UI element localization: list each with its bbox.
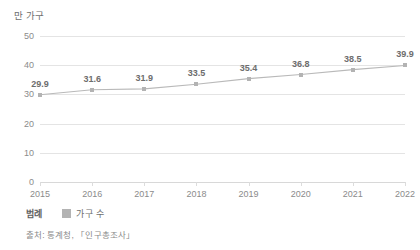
y-tick-label-40: 40: [24, 60, 34, 70]
source-note: 출처: 통계청, 「인구총조사」: [26, 228, 135, 240]
data-label-2015: 29.9: [31, 79, 49, 89]
x-tick-mark-2022: [405, 182, 406, 186]
data-point-2021[interactable]: [351, 68, 355, 72]
x-tick-mark-2015: [40, 182, 41, 186]
legend-item-household-count[interactable]: 가구 수: [62, 207, 103, 220]
data-point-2022[interactable]: [403, 63, 407, 67]
data-label-2022: 39.9: [396, 49, 414, 59]
data-point-2017[interactable]: [142, 87, 146, 91]
x-tick-mark-2017: [144, 182, 145, 186]
x-tick-mark-2016: [92, 182, 93, 186]
x-tick-label-2020: 2020: [291, 189, 311, 199]
x-tick-label-2021: 2021: [343, 189, 363, 199]
y-tick-label-20: 20: [24, 119, 34, 129]
x-tick-mark-2021: [353, 182, 354, 186]
y-tick-label-0: 0: [29, 177, 34, 187]
x-tick-label-2019: 2019: [239, 189, 259, 199]
data-label-2021: 38.5: [344, 54, 362, 64]
y-axis-unit-title: 만 가구: [14, 8, 44, 22]
y-tick-label-10: 10: [24, 148, 34, 158]
legend-item-label: 가구 수: [76, 207, 103, 220]
legend-swatch-icon: [62, 209, 71, 218]
legend: 범례 가구 수: [26, 207, 104, 220]
x-tick-label-2015: 2015: [30, 189, 50, 199]
legend-title: 범례: [26, 207, 42, 220]
chart-container: 만 가구 01020304050 20152016201720182019202…: [0, 0, 420, 250]
data-label-2019: 35.4: [240, 63, 258, 73]
x-tick-label-2017: 2017: [134, 189, 154, 199]
data-point-2020[interactable]: [299, 73, 303, 77]
x-tick-mark-2019: [249, 182, 250, 186]
x-tick-label-2016: 2016: [82, 189, 102, 199]
x-tick-label-2018: 2018: [186, 189, 206, 199]
data-point-2015[interactable]: [38, 93, 42, 97]
x-tick-mark-2020: [301, 182, 302, 186]
data-point-2018[interactable]: [194, 82, 198, 86]
y-tick-label-50: 50: [24, 31, 34, 41]
data-label-2020: 36.8: [292, 59, 310, 69]
gridline-0: [40, 182, 405, 183]
x-tick-label-2022: 2022: [395, 189, 415, 199]
plot-area: 01020304050 2015201620172018201920202021…: [40, 36, 405, 182]
data-point-2019[interactable]: [247, 77, 251, 81]
y-tick-label-30: 30: [24, 89, 34, 99]
data-label-2017: 31.9: [136, 73, 154, 83]
data-label-2018: 33.5: [188, 68, 206, 78]
data-point-2016[interactable]: [90, 88, 94, 92]
data-label-2016: 31.6: [83, 74, 101, 84]
x-tick-mark-2018: [196, 182, 197, 186]
